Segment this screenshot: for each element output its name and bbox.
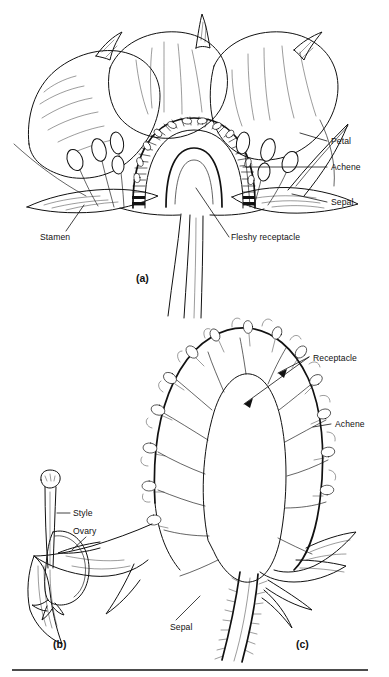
panel-label-a: (a) [136,272,149,284]
petal-center-veins [136,42,202,114]
panel-c-annotations: Receptacle Achene Sepal (c) [170,353,365,650]
panel-b-annotations: Style Ovary (b) [53,508,97,650]
receptacle-floor-left [120,208,180,215]
label-achene-a: Achene [331,162,361,172]
sepal-right-c-shading [300,540,350,572]
sepal-right-shading [256,196,324,208]
sepal-reflexed-left-c [28,556,62,644]
pedicel-hairs-c [215,578,267,659]
sepal-tip-right-fold [296,126,348,186]
sepal-spur-left [96,32,122,60]
panel-a-annotations: Petal Achene Sepal Stamen Fleshy recepta… [40,133,361,284]
label-achene-c: Achene [335,419,365,429]
label-sepal-c: Sepal [170,622,192,632]
achene-group-c [142,320,336,528]
panel-label-c: (c) [296,638,309,650]
petal-right-veins [232,46,316,126]
receptacle-outer-wall-lower-left [155,503,180,570]
receptacle-floor-right [210,209,264,215]
achene-band-inner [145,130,243,208]
label-stamen: Stamen [40,232,70,242]
sepal-left-shading [44,196,118,210]
stamen-group-left [64,131,125,207]
pedicel-left-edge-c [222,572,240,660]
fleshy-receptacle-inner [175,160,213,204]
leader-stamen [66,205,84,231]
sepal-blade-right-c [274,532,356,572]
panel-a-illustration [14,14,358,318]
label-petal: Petal [331,136,351,146]
sepal-inner-left-c [106,564,140,614]
panel-label-b: (b) [53,638,66,650]
label-receptacle: Receptacle [313,353,357,363]
pedicel-center-line [194,218,196,318]
pedicel-mid-edge [184,215,190,318]
leader-sepal-c [176,596,200,620]
label-ovary: Ovary [73,526,97,536]
panel-c-illustration [28,318,356,662]
receptacle-inner-pith [203,374,286,582]
sepal-spur-shading [102,22,313,58]
receptacle-veins [158,338,328,576]
leader-receptacle [244,357,309,404]
ovary-highlight [55,536,86,597]
figure-canvas: Petal Achene Sepal Stamen Fleshy recepta… [0,0,389,677]
stigma-texture [45,474,55,481]
sepal-spur-right [294,32,322,60]
receptacle-bristles [141,318,336,502]
label-style: Style [73,508,93,518]
pedicel-left-edge [168,214,181,316]
label-sepal-a: Sepal [331,197,353,207]
pedicel-right-edge [201,216,203,318]
petal-right-edge-fold [320,120,334,186]
botanical-figure: Petal Achene Sepal Stamen Fleshy recepta… [0,0,389,677]
achene-band-base-blocks [132,196,255,205]
achene-seeds [133,117,254,185]
sepal-spur-top [196,14,210,48]
label-fleshy-receptacle: Fleshy receptacle [231,232,300,242]
style-right-edge [53,487,56,568]
fleshy-receptacle-dome [166,148,222,207]
sepal-inner-right-c [266,580,312,610]
sepal-left-c-shading [38,556,130,628]
sepal-blade-right-lower-c [260,560,346,582]
panel-b-illustration [32,470,89,620]
